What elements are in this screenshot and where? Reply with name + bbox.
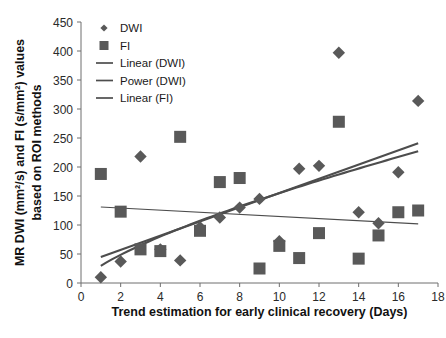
y-tick-label: 400: [53, 45, 73, 59]
data-point-dwi: [174, 254, 186, 266]
data-point-dwi: [313, 160, 325, 172]
data-point-fi: [412, 205, 424, 217]
x-tick-label: 14: [352, 290, 366, 304]
data-point-fi: [115, 206, 127, 218]
data-point-fi: [135, 243, 147, 255]
data-point-dwi: [352, 206, 364, 218]
x-tick-label: 6: [197, 290, 204, 304]
chart-canvas: 0501001502002503003504004500246810121416…: [0, 0, 446, 338]
legend-label-fi: FI: [120, 40, 130, 52]
legend-label-power-dwi: Power (DWI): [120, 75, 186, 87]
y-tick-label: 250: [53, 132, 73, 146]
data-point-fi: [234, 172, 246, 184]
data-point-fi: [254, 263, 266, 275]
legend-diamond-icon: [100, 24, 107, 31]
data-point-fi: [373, 229, 385, 241]
data-point-fi: [353, 253, 365, 265]
y-tick-label: 450: [53, 16, 73, 30]
y-tick-label: 0: [66, 277, 73, 291]
x-tick-label: 16: [392, 290, 406, 304]
data-point-dwi: [412, 95, 424, 107]
scatter-chart: 0501001502002503003504004500246810121416…: [0, 0, 446, 338]
data-point-fi: [313, 227, 325, 239]
x-tick-label: 12: [312, 290, 326, 304]
x-tick-label: 8: [236, 290, 243, 304]
x-tick-label: 10: [273, 290, 287, 304]
data-point-dwi: [293, 163, 305, 175]
trendline-linear-fi: [101, 207, 418, 224]
x-tick-label: 0: [78, 290, 85, 304]
trendline-power-dwi: [101, 151, 418, 266]
legend-label-linear-dwi: Linear (DWI): [120, 57, 185, 69]
x-tick-label: 4: [157, 290, 164, 304]
y-tick-label: 100: [53, 219, 73, 233]
data-point-dwi: [333, 47, 345, 59]
legend-label-linear-fi: Linear (FI): [120, 92, 173, 104]
y-tick-label: 200: [53, 161, 73, 175]
data-point-fi: [154, 245, 166, 257]
legend-square-icon: [100, 41, 109, 50]
data-point-fi: [293, 252, 305, 264]
y-axis-title-line1: MR DWI (mm²/s) and FI (s/mm²) values: [13, 39, 27, 266]
y-axis-title-line2: based on ROI methods: [30, 84, 44, 220]
data-point-dwi: [253, 193, 265, 205]
data-point-dwi: [233, 201, 245, 213]
data-point-fi: [174, 131, 186, 143]
data-point-dwi: [95, 271, 107, 283]
y-tick-label: 50: [60, 248, 74, 262]
legend-label-dwi: DWI: [120, 22, 142, 34]
y-tick-label: 150: [53, 190, 73, 204]
data-point-dwi: [372, 217, 384, 229]
data-point-fi: [95, 168, 107, 180]
x-axis-title: Trend estimation for early clinical reco…: [112, 305, 408, 319]
x-tick-label: 18: [431, 290, 445, 304]
data-point-dwi: [392, 166, 404, 178]
data-point-fi: [333, 116, 345, 128]
data-point-fi: [194, 225, 206, 237]
y-tick-label: 350: [53, 74, 73, 88]
data-point-fi: [214, 176, 226, 188]
data-point-fi: [273, 240, 285, 252]
y-tick-label: 300: [53, 103, 73, 117]
legend: DWIFILinear (DWI)Power (DWI)Linear (FI): [96, 22, 186, 104]
data-point-fi: [392, 206, 404, 218]
data-point-dwi: [134, 150, 146, 162]
x-tick-label: 2: [117, 290, 124, 304]
